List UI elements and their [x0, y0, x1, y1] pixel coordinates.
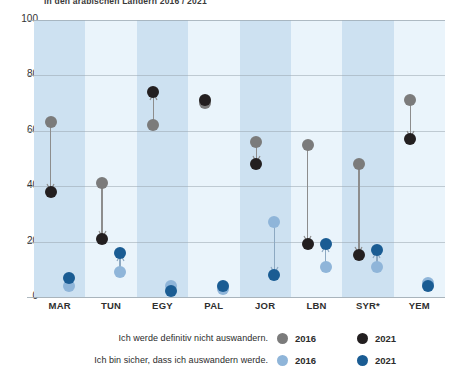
y-tick-mark-20	[27, 242, 34, 243]
connector-stay-mar	[50, 122, 51, 191]
band-yem	[394, 20, 445, 297]
legend-entry-2021-2: 2021	[357, 355, 437, 366]
x-axis-label-lbn: LBN	[291, 300, 342, 316]
legend-row-1: Ich werde definitiv nicht auswandern.201…	[0, 327, 459, 349]
connector-stay-lbn	[307, 145, 308, 245]
chart-root: in den arabischen Ländern 2016 / 2021 02…	[0, 0, 459, 378]
gridline-80	[34, 75, 445, 76]
gridline-0	[34, 297, 445, 298]
background-bands	[34, 20, 445, 297]
band-lbn	[291, 20, 342, 297]
legend-swatch-icon	[277, 355, 288, 366]
legend-entry-2016-1: 2016	[277, 333, 357, 344]
band-jor	[240, 20, 291, 297]
x-axis-label-jor: JOR	[240, 300, 291, 316]
y-tick-mark-60	[27, 131, 34, 132]
band-mar	[34, 20, 85, 297]
data-point-leave-2016-syr	[371, 261, 383, 273]
data-point-stay-2016-lbn	[302, 139, 314, 151]
x-axis-label-pal: PAL	[188, 300, 239, 316]
legend-label-1: Ich werde definitiv nicht auswandern.	[0, 333, 277, 343]
data-point-leave-2021-jor	[268, 269, 280, 281]
gridline-60	[34, 131, 445, 132]
gridline-20	[34, 242, 445, 243]
data-point-leave-2021-syr	[371, 244, 383, 256]
legend-year-label: 2016	[295, 355, 316, 366]
legend-year-label: 2021	[375, 333, 396, 344]
data-point-stay-2016-syr	[353, 158, 365, 170]
connector-stay-syr	[358, 164, 359, 255]
y-tick-mark-40	[27, 186, 34, 187]
y-tick-mark-0	[27, 297, 34, 298]
band-tun	[85, 20, 136, 297]
band-pal	[188, 20, 239, 297]
data-point-stay-2021-lbn	[302, 238, 314, 250]
band-syr	[342, 20, 393, 297]
legend-year-label: 2016	[295, 333, 316, 344]
legend-swatch-icon	[277, 333, 288, 344]
legend-entry-2021-1: 2021	[357, 333, 437, 344]
x-axis-label-yem: YEM	[394, 300, 445, 316]
chart-legend: Ich werde definitiv nicht auswandern.201…	[0, 327, 459, 371]
data-point-leave-2021-lbn	[320, 238, 332, 250]
gridline-40	[34, 186, 445, 187]
data-point-stay-2021-tun	[96, 233, 108, 245]
x-axis-label-syr: SYR*	[342, 300, 393, 316]
plot-area	[34, 20, 445, 297]
gridline-100	[34, 20, 445, 21]
x-axis-label-mar: MAR	[34, 300, 85, 316]
legend-swatch-icon	[357, 333, 368, 344]
legend-row-2: Ich bin sicher, dass ich auswandern werd…	[0, 349, 459, 371]
y-tick-mark-100	[27, 20, 34, 21]
x-axis-label-tun: TUN	[85, 300, 136, 316]
data-point-leave-2021-tun	[114, 247, 126, 259]
y-tick-mark-80	[27, 75, 34, 76]
data-point-leave-2021-mar	[63, 272, 75, 284]
data-point-leave-2016-lbn	[320, 261, 332, 273]
legend-entry-2016-2: 2016	[277, 355, 357, 366]
x-axis-label-egy: EGY	[137, 300, 188, 316]
data-point-leave-2021-pal	[217, 280, 229, 292]
x-axis-labels: MARTUNEGYPALJORLBNSYR*YEM	[34, 300, 445, 316]
data-point-stay-2021-mar	[45, 186, 57, 198]
legend-label-2: Ich bin sicher, dass ich auswandern werd…	[0, 355, 277, 365]
legend-year-label: 2021	[375, 355, 396, 366]
chart-title: in den arabischen Ländern 2016 / 2021	[44, 0, 207, 5]
data-point-stay-2016-jor	[250, 136, 262, 148]
band-egy	[137, 20, 188, 297]
legend-swatch-icon	[357, 355, 368, 366]
